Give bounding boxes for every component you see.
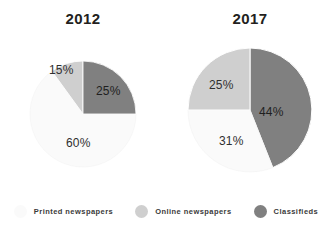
chart-legend: Printed newspapers Online newspapers Cla… xyxy=(0,200,332,222)
legend-label-printed-newspapers: Printed newspapers xyxy=(34,207,113,216)
chart-title-2012: 2012 xyxy=(28,10,138,27)
legend-item-printed-newspapers: Printed newspapers xyxy=(14,205,113,218)
legend-swatch-printed-newspapers-icon xyxy=(14,205,27,218)
legend-swatch-classifieds-icon xyxy=(254,205,267,218)
pie-2012-label-printed-newspapers: 60% xyxy=(66,136,91,150)
pie-2012-label-classifieds: 25% xyxy=(96,84,121,98)
pie-2017-label-online-newspapers: 25% xyxy=(209,78,234,92)
legend-item-classifieds: Classifieds xyxy=(254,205,319,218)
legend-swatch-online-newspapers-icon xyxy=(135,205,148,218)
pie-2017-label-printed-newspapers: 31% xyxy=(219,134,244,148)
legend-item-online-newspapers: Online newspapers xyxy=(135,205,231,218)
pie-chart-figure: 2012 25% 15% 60% 2017 44% 25% 31% Pr xyxy=(0,0,332,238)
pie-2017-svg xyxy=(188,48,312,172)
pie-chart-2017 xyxy=(188,48,312,172)
pie-2017-label-classifieds: 44% xyxy=(259,105,284,119)
pie-2012-svg xyxy=(30,61,136,167)
pie-chart-2012 xyxy=(30,61,136,167)
legend-label-classifieds: Classifieds xyxy=(274,207,319,216)
legend-label-online-newspapers: Online newspapers xyxy=(155,207,231,216)
chart-title-2017: 2017 xyxy=(195,10,305,27)
pie-2012-label-online-newspapers: 15% xyxy=(49,63,74,77)
